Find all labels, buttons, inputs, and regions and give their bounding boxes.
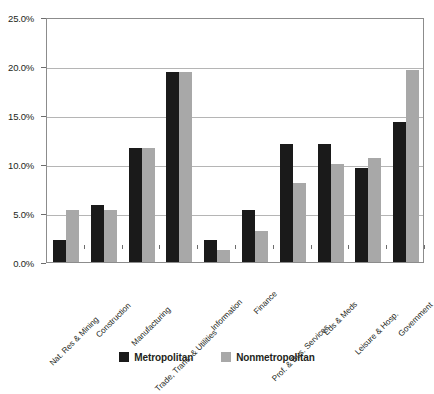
bar-metropolitan: [129, 148, 142, 262]
x-tick-mark: [386, 245, 387, 249]
x-tick-mark: [84, 245, 85, 249]
x-tick-mark: [122, 245, 123, 249]
bar-nonmetropolitan: [406, 70, 419, 262]
bar-metropolitan: [53, 240, 66, 262]
bar-nonmetropolitan: [142, 148, 155, 262]
x-tick-mark: [273, 245, 274, 249]
bar-metropolitan: [166, 72, 179, 262]
bar-metropolitan: [280, 144, 293, 262]
bar-metropolitan: [91, 205, 104, 262]
bar-nonmetropolitan: [179, 72, 192, 262]
bar-nonmetropolitan: [368, 158, 381, 262]
bar-nonmetropolitan: [331, 164, 344, 262]
x-tick-mark: [197, 245, 198, 249]
x-tick-label: Eds & Meds: [321, 300, 358, 337]
x-tick-label: Finance: [252, 289, 279, 316]
bar-metropolitan: [318, 144, 331, 262]
chart-legend: MetropolitanNonmetropolitan: [0, 349, 434, 365]
x-axis: Nat. Res & MiningConstructionManufacturi…: [0, 263, 434, 343]
legend-entry: Metropolitan: [119, 352, 193, 363]
x-tick-mark: [311, 245, 312, 249]
x-tick-mark: [159, 245, 160, 249]
x-tick-mark: [348, 245, 349, 249]
y-tick-label: 15.0%: [8, 111, 34, 122]
bars-layer: [47, 19, 423, 262]
plot-area: [46, 18, 424, 263]
bar-nonmetropolitan: [66, 210, 79, 262]
bar-metropolitan: [204, 240, 217, 262]
y-tick-label: 20.0%: [8, 62, 34, 73]
bar-nonmetropolitan: [104, 210, 117, 262]
y-tick-label: 10.0%: [8, 160, 34, 171]
legend-entry: Nonmetropolitan: [221, 352, 315, 363]
y-tick-label: 25.0%: [8, 13, 34, 24]
legend-label: Nonmetropolitan: [236, 352, 315, 363]
x-tick-label: Government: [397, 301, 434, 339]
y-tick-label: 5.0%: [13, 209, 34, 220]
x-tick-mark: [235, 245, 236, 249]
bar-nonmetropolitan: [293, 183, 306, 262]
bar-nonmetropolitan: [217, 250, 230, 262]
bar-metropolitan: [242, 210, 255, 262]
x-tick-label: Information: [209, 298, 244, 333]
bar-metropolitan: [355, 168, 368, 262]
bar-nonmetropolitan: [255, 231, 268, 262]
metro-swatch: [119, 352, 129, 362]
legend-label: Metropolitan: [134, 352, 193, 363]
nonmetro-swatch: [221, 352, 231, 362]
bar-metropolitan: [393, 122, 406, 262]
x-tick-mark: [424, 245, 425, 249]
x-tick-label: Manufacturing: [129, 305, 172, 348]
